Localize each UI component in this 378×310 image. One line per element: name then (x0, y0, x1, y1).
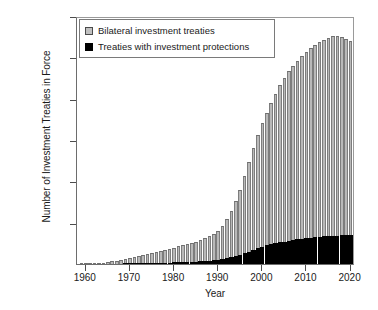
chart-legend: Bilateral investment treaties Treaties w… (79, 19, 275, 58)
bar-segment-bilateral (80, 263, 84, 264)
x-tick-mark (305, 265, 306, 271)
bar-segment-bilateral (230, 211, 234, 264)
bar-segment-bilateral (274, 94, 278, 264)
bar-segment-bilateral (318, 42, 322, 264)
bar-column (340, 17, 344, 264)
bar-segment-bilateral (283, 78, 287, 264)
bar-segment-bilateral (252, 148, 256, 264)
bar-column (318, 17, 322, 264)
x-tick-label: 1970 (105, 273, 153, 283)
x-tick-label: 2010 (281, 273, 329, 283)
bar-column (291, 17, 295, 264)
bar-segment-bilateral (234, 201, 238, 264)
y-axis-title: Number of Investment Treaties in Force (41, 12, 52, 262)
bar-column (296, 17, 300, 264)
bar-segment-bilateral (278, 85, 282, 264)
x-tick-label: 1980 (149, 273, 197, 283)
bar-segment-bilateral (225, 219, 229, 264)
bar-column (322, 17, 326, 264)
chart-figure: Number of Investment Treaties in Force 3… (0, 0, 378, 310)
bar-segment-bilateral (102, 263, 106, 264)
x-tick-label: 2020 (326, 273, 374, 283)
x-tick-mark (217, 265, 218, 271)
bar-segment-bilateral (291, 66, 295, 264)
bar-column (287, 17, 291, 264)
x-axis-title: Year (76, 288, 354, 299)
x-tick-label: 1990 (193, 273, 241, 283)
legend-label-bilateral: Bilateral investment treaties (98, 26, 215, 36)
bar-segment-bilateral (300, 56, 304, 264)
bar-column (313, 17, 317, 264)
legend-item-bilateral: Bilateral investment treaties (85, 23, 274, 39)
bar-segment-bilateral (84, 263, 88, 264)
bar-segment-bilateral (322, 40, 326, 264)
bar-segment-bilateral (309, 48, 313, 264)
bar-segment-bilateral (238, 190, 242, 264)
bar-column (300, 17, 304, 264)
legend-swatch-gray-icon (85, 27, 93, 35)
bar-segment-bilateral (340, 37, 344, 264)
bar-segment-bilateral (256, 135, 260, 264)
x-tick-label: 2000 (237, 273, 285, 283)
bar-segment-bilateral (349, 41, 353, 264)
x-tick-label: 1960 (61, 273, 109, 283)
bar-segment-bilateral (261, 123, 265, 264)
bar-segment-bilateral (336, 36, 340, 264)
bar-column (349, 17, 353, 264)
bar-segment-bilateral (243, 176, 247, 264)
bar-column (309, 17, 313, 264)
legend-item-protections: Treaties with investment protections (85, 39, 274, 55)
x-tick-mark (350, 265, 351, 271)
x-tick-mark (173, 265, 174, 271)
bar-segment-bilateral (88, 263, 92, 264)
bar-segment-bilateral (331, 36, 335, 264)
bar-segment-bilateral (93, 263, 97, 264)
bar-segment-bilateral (305, 52, 309, 264)
legend-swatch-black-icon (85, 43, 93, 51)
bar-segment-bilateral (344, 39, 348, 264)
bar-segment-protections (348, 235, 352, 264)
x-tick-mark (261, 265, 262, 271)
bar-segment-bilateral (269, 103, 273, 264)
bar-column (283, 17, 287, 264)
bar-column (305, 17, 309, 264)
bar-column (327, 17, 331, 264)
bar-segment-bilateral (287, 71, 291, 264)
legend-label-protections: Treaties with investment protections (98, 42, 249, 52)
x-tick-mark (129, 265, 130, 271)
bar-segment-bilateral (313, 45, 317, 264)
bar-segment-bilateral (327, 38, 331, 265)
x-tick-mark (85, 265, 86, 271)
bar-segment-bilateral (247, 162, 251, 264)
bar-segment-bilateral (97, 263, 101, 264)
bar-segment-bilateral (265, 113, 269, 264)
bar-column (344, 17, 348, 264)
bar-column (278, 17, 282, 264)
bar-segment-bilateral (296, 61, 300, 264)
bar-column (331, 17, 335, 264)
bar-column (336, 17, 340, 264)
